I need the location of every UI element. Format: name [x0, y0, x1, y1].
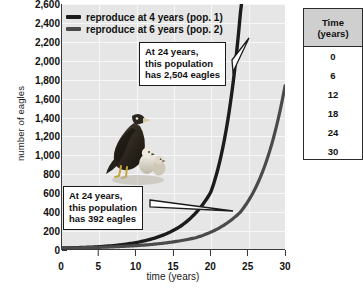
annotation-pop2: At 24 years, this population has 392 eag…	[63, 186, 143, 230]
time-table-row: 6	[304, 66, 362, 85]
leader-line	[232, 38, 249, 72]
annotation-pop1-line1: At 24 years,	[145, 46, 220, 58]
time-table-row: 30	[304, 142, 362, 160]
time-table-row: 0	[304, 47, 362, 66]
time-table-row: 12	[304, 85, 362, 104]
time-table-header-line1: Time	[317, 17, 348, 28]
annotation-pop2-line2: this population	[69, 202, 137, 214]
time-table-body: 0612182430	[304, 47, 362, 160]
annotation-pop1-line3: has 2,504 eagles	[145, 69, 220, 81]
time-table-header-line2: (years)	[317, 28, 348, 39]
annotation-pop1: At 24 years, this population has 2,504 e…	[139, 42, 226, 86]
time-table-header: Time (years)	[304, 9, 362, 47]
annotation-pop1-line2: this population	[145, 58, 220, 70]
time-table-row: 24	[304, 123, 362, 142]
time-table: Time (years) 0612182430	[303, 8, 363, 160]
annotation-pop2-line3: has 392 eagles	[69, 213, 137, 225]
annotation-pop2-line1: At 24 years,	[69, 190, 137, 202]
time-table-row: 18	[304, 104, 362, 123]
leader-line	[150, 200, 233, 211]
